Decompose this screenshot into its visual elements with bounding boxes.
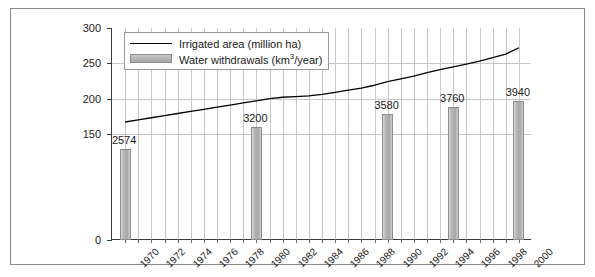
legend-entry-irrigated-area: Irrigated area (million ha) [130, 36, 322, 51]
legend-bar-icon [130, 54, 172, 63]
legend-entry-water-withdrawals: Water withdrawals (km3/year) [130, 51, 322, 66]
bar-value-label: 3940 [506, 86, 530, 98]
bar-value-label: 2574 [112, 134, 136, 146]
y-axis-tick-label: 0 [41, 234, 101, 246]
x-axis-tick-label: 1992 [426, 246, 450, 270]
x-axis-tick-label: 2000 [531, 246, 555, 270]
x-axis-tick-label: 1996 [479, 246, 503, 270]
x-axis-tick-label: 1982 [295, 246, 319, 270]
x-axis-tick-label: 1978 [243, 246, 267, 270]
bar-value-label: 3200 [243, 112, 267, 124]
bar-value-label: 3760 [440, 92, 464, 104]
x-axis-tick-label: 1998 [505, 246, 529, 270]
y-axis-tick-label: 150 [41, 128, 101, 140]
legend-label-irrigated-area: Irrigated area (million ha) [179, 37, 301, 51]
figure-frame: Irrigated area (million ha) Water withdr… [10, 8, 585, 265]
x-axis-tick-label: 1976 [216, 246, 240, 270]
chart-figure: Irrigated area (million ha) Water withdr… [0, 0, 595, 277]
legend-superscript: 3 [290, 52, 294, 61]
x-axis-tick-label: 1994 [453, 246, 477, 270]
legend-line-icon [130, 43, 172, 44]
x-axis-tick-label: 1980 [269, 246, 293, 270]
x-axis-tick-label: 1984 [321, 246, 345, 270]
bar-value-label: 3580 [374, 99, 398, 111]
y-axis-tick-label: 300 [41, 22, 101, 34]
y-axis-tick-label: 200 [41, 93, 101, 105]
x-axis-tick-label: 1986 [348, 246, 372, 270]
x-axis-tick-label: 1972 [164, 246, 188, 270]
y-tick-mark [107, 240, 112, 241]
x-axis-tick-label: 1988 [374, 246, 398, 270]
y-axis-tick-label: 250 [41, 57, 101, 69]
x-axis-tick-label: 1974 [190, 246, 214, 270]
x-axis-tick-label: 1970 [138, 246, 162, 270]
legend-label-water-withdrawals: Water withdrawals (km3/year) [179, 50, 322, 67]
chart-legend: Irrigated area (million ha) Water withdr… [124, 32, 329, 70]
x-axis-tick-label: 1990 [400, 246, 424, 270]
plot-area: Irrigated area (million ha) Water withdr… [111, 28, 531, 240]
